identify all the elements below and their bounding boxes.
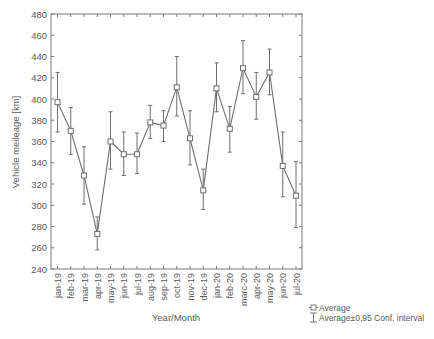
x-tick-label: sep-19 <box>159 273 169 301</box>
legend: Average Average±0,95 Conf. interval <box>309 303 424 323</box>
y-tick-label: 300 <box>31 200 47 211</box>
chart: 240260280300320340360380400420440460480 … <box>0 0 434 339</box>
x-tick-label: dec-19 <box>199 273 209 301</box>
data-point-marker <box>148 120 153 125</box>
legend-average-label: Average <box>319 303 351 313</box>
x-tick-label: nov-19 <box>186 273 196 301</box>
y-axis-ticks: 240260280300320340360380400420440460480 <box>31 9 302 275</box>
y-tick-label: 380 <box>31 115 47 126</box>
data-point-marker <box>174 85 179 90</box>
y-tick-label: 480 <box>31 9 47 20</box>
y-tick-label: 460 <box>31 30 47 41</box>
data-point-marker <box>121 152 126 157</box>
data-point-marker <box>135 152 140 157</box>
data-point-marker <box>188 136 193 141</box>
y-tick-label: 420 <box>31 72 47 83</box>
x-tick-label: may-20 <box>265 273 275 303</box>
x-axis-label: Year/Month <box>152 312 200 323</box>
data-point-marker <box>108 139 113 144</box>
data-point-marker <box>294 193 299 198</box>
x-tick-label: feb-20 <box>225 273 235 299</box>
data-point-marker <box>55 100 60 105</box>
chart-svg: 240260280300320340360380400420440460480 … <box>0 0 434 339</box>
y-tick-label: 320 <box>31 179 47 190</box>
x-tick-label: jan-20 <box>212 273 222 299</box>
y-axis-label: Vehicle meileage [km] <box>10 96 21 188</box>
data-point-marker <box>82 173 87 178</box>
data-point-marker <box>267 70 272 75</box>
x-tick-label: jan-19 <box>53 273 63 299</box>
data-point-marker <box>280 163 285 168</box>
x-tick-label: marc-20 <box>239 273 249 306</box>
data-point-marker <box>254 94 259 99</box>
plot-axes <box>51 14 302 269</box>
legend-average-icon <box>309 305 318 310</box>
x-tick-label: aug-19 <box>146 273 156 301</box>
y-tick-label: 240 <box>31 264 47 275</box>
y-tick-label: 260 <box>31 242 47 253</box>
legend-errorbar-icon <box>310 313 317 322</box>
legend-ci-label: Average±0,95 Conf. interval <box>319 313 424 323</box>
data-point-marker <box>68 128 73 133</box>
data-point-marker <box>201 188 206 193</box>
data-point-marker <box>95 231 100 236</box>
x-tick-label: jun-19 <box>119 273 129 299</box>
y-tick-label: 280 <box>31 221 47 232</box>
x-tick-label: feb-19 <box>66 273 76 299</box>
x-tick-label: oct-19 <box>172 273 182 298</box>
x-tick-label: apr-19 <box>93 273 103 299</box>
confidence-interval-bars <box>56 41 299 250</box>
plot-frame <box>51 14 302 269</box>
y-tick-label: 360 <box>31 136 47 147</box>
x-tick-label: may-19 <box>106 273 116 303</box>
x-tick-label: jul-19 <box>133 273 143 296</box>
x-tick-label: jun-20 <box>278 273 288 299</box>
y-tick-label: 440 <box>31 51 47 62</box>
data-point-marker <box>161 123 166 128</box>
x-tick-label: jul-20 <box>292 273 302 296</box>
x-tick-label: apr-20 <box>252 273 262 299</box>
x-tick-label: mar-19 <box>80 273 90 302</box>
data-point-marker <box>214 86 219 91</box>
y-tick-label: 340 <box>31 157 47 168</box>
data-point-marker <box>227 126 232 131</box>
data-point-marker <box>241 66 246 71</box>
y-tick-label: 400 <box>31 94 47 105</box>
